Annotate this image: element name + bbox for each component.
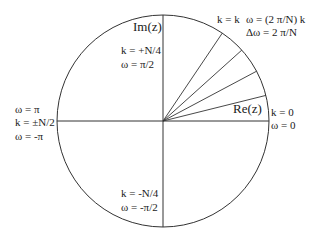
left-omega-neg-label: ω = -π	[15, 130, 43, 142]
delta-omega-label: Δω = 2 π/N	[246, 26, 297, 38]
right-omega-label: ω = 0	[271, 119, 295, 131]
right-k-label: k = 0	[271, 106, 294, 118]
general-omega-label: ω = (2 π/N) k	[246, 13, 305, 25]
left-k-label: k = ±N/2	[15, 116, 55, 128]
real-axis-label: Re(z)	[233, 102, 262, 116]
bottom-omega-label: ω = -π/2	[121, 201, 158, 213]
imag-axis-label: Im(z)	[133, 20, 162, 34]
top-k-label: k = +N/4	[121, 44, 161, 56]
top-omega-label: ω = π/2	[121, 58, 154, 70]
left-omega-pos-label: ω = π	[15, 103, 40, 115]
bottom-k-label: k = -N/4	[121, 187, 158, 199]
radial-line-4	[163, 33, 222, 121]
general-k-label: k = k	[217, 13, 240, 25]
